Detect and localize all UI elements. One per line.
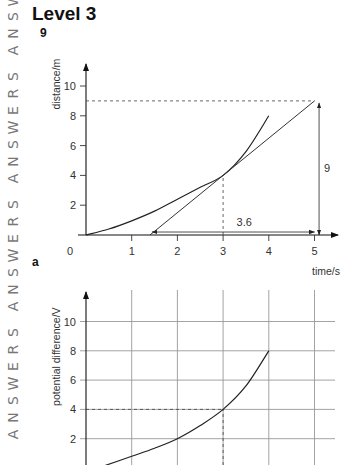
y-tick-label: 2 bbox=[70, 199, 76, 211]
y-tick-label: 6 bbox=[70, 140, 76, 152]
y-tick-label: 8 bbox=[70, 345, 76, 357]
x-tick-label: 3 bbox=[220, 245, 226, 257]
x-tick-label: 4 bbox=[266, 245, 272, 257]
x-tick-label: 1 bbox=[129, 245, 135, 257]
y-tick-label: 4 bbox=[70, 403, 76, 415]
y-tick-label: 2 bbox=[70, 433, 76, 445]
tangent-line bbox=[150, 101, 315, 235]
y-tick-label: 6 bbox=[70, 374, 76, 386]
y-tick-label: 8 bbox=[70, 110, 76, 122]
run-label: 3.6 bbox=[237, 216, 252, 228]
distance-time-chart: 123450246810distance/mtime/s3.69 bbox=[50, 58, 340, 277]
y-axis-title: potential difference/V bbox=[50, 307, 62, 405]
y-tick-label: 10 bbox=[64, 316, 76, 328]
x-tick-label: 2 bbox=[174, 245, 180, 257]
rise-label: 9 bbox=[324, 162, 330, 174]
origin-label: 0 bbox=[67, 245, 73, 257]
potential-difference-chart: 246810potential difference/V bbox=[50, 290, 335, 465]
y-tick-label: 10 bbox=[64, 80, 76, 92]
x-tick-label: 5 bbox=[311, 245, 317, 257]
x-axis-title: time/s bbox=[312, 265, 340, 277]
y-tick-label: 4 bbox=[70, 169, 76, 181]
charts-canvas: 123450246810distance/mtime/s3.69 246810p… bbox=[0, 0, 350, 465]
voltage-curve bbox=[104, 351, 269, 465]
y-axis-title: distance/m bbox=[50, 58, 62, 109]
